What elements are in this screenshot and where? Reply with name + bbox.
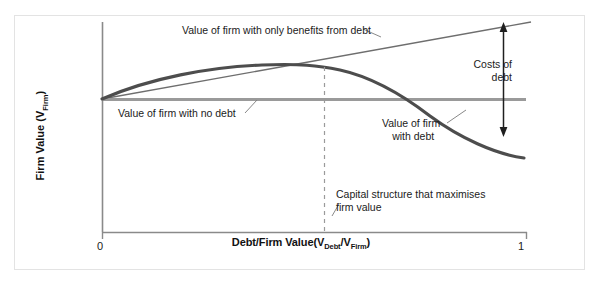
leader-line-with-debt bbox=[447, 110, 466, 123]
x-axis-title-sub-firm: Firm bbox=[351, 242, 367, 251]
chart-figure: Value of firm with only benefits from de… bbox=[0, 0, 602, 282]
annotation-capital-structure-line2: firm value bbox=[336, 201, 485, 214]
annotation-costs-of-debt: Costs of debt bbox=[448, 58, 512, 84]
annotation-capital-structure-line1: Capital structure that maximises bbox=[336, 188, 485, 201]
annotation-with-debt-line1: Value of firm bbox=[382, 117, 440, 130]
annotation-benefits-from-debt: Value of firm with only benefits from de… bbox=[182, 24, 371, 37]
x-axis-title-mid: /V bbox=[341, 236, 351, 248]
x-axis-title-main: Debt/Firm Value(V bbox=[232, 236, 324, 248]
annotation-with-debt: Value of firm with debt bbox=[382, 117, 440, 143]
annotation-costs-of-debt-line2: debt bbox=[448, 71, 512, 84]
y-axis-title-sub-firm: Firm bbox=[41, 94, 50, 110]
annotation-no-debt: Value of firm with no debt bbox=[118, 107, 236, 120]
x-axis-title: Debt/Firm Value(VDebt/VFirm) bbox=[0, 236, 602, 251]
annotation-costs-of-debt-line1: Costs of bbox=[448, 58, 512, 71]
y-axis-title-end: ) bbox=[34, 91, 46, 95]
y-axis-title-main: Firm Value (V bbox=[34, 111, 46, 181]
annotation-capital-structure: Capital structure that maximises firm va… bbox=[336, 188, 485, 214]
x-axis-title-sub-debt: Debt bbox=[324, 242, 340, 251]
y-axis-title: Firm Value (VFirm) bbox=[34, 56, 49, 216]
leader-line-no-debt bbox=[245, 100, 257, 113]
annotation-with-debt-line2: with debt bbox=[382, 130, 440, 143]
x-axis-title-end: ) bbox=[367, 236, 371, 248]
